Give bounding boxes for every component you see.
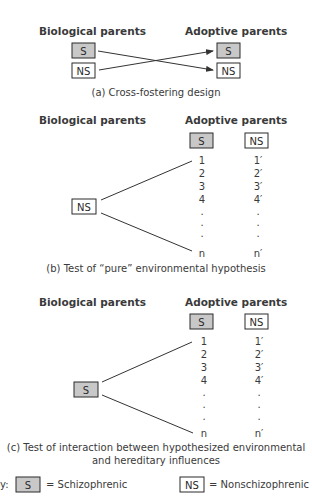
list-item: . (200, 228, 203, 239)
panel-b-col-s-label: S (198, 136, 204, 147)
list-item: . (257, 399, 260, 410)
list-item: . (256, 217, 259, 228)
list-item: 1 (201, 336, 207, 347)
panel-c-col-ns-label: NS (250, 317, 264, 328)
list-item: 3 (199, 181, 205, 192)
panel-a-adoptive-ns-label: NS (222, 66, 236, 77)
list-item: 4 (201, 375, 207, 386)
list-item: 2′ (254, 168, 263, 179)
list-item: 3′ (255, 362, 264, 373)
panel-b-header-biological: Biological parents (39, 114, 146, 126)
panel-b-bio-ns-label: NS (77, 202, 91, 213)
list-item: . (256, 206, 259, 217)
panel-a-caption: (a) Cross-fostering design (92, 87, 221, 98)
panel-c-bio-s-label: S (83, 385, 89, 396)
list-item: 1 (199, 155, 205, 166)
panel-b-col-s-list: 1 2 3 4 . . . n (199, 155, 205, 259)
panel-b-caption: (b) Test of “pure” environmental hypothe… (46, 263, 265, 274)
list-item: 1′ (255, 336, 264, 347)
panel-c-col-s-list: 1 2 3 4 . . . n (201, 336, 207, 439)
panel-b-header-adoptive: Adoptive parents (185, 114, 287, 126)
list-item: 4 (199, 194, 205, 205)
panel-b-line-to-first (101, 161, 192, 200)
legend-key: y: S = Schizophrenic NS = Nonschizophren… (0, 477, 309, 492)
list-item: 2 (199, 168, 205, 179)
list-item: . (202, 399, 205, 410)
panel-a-cross-fostering: Biological parents Adoptive parents S NS… (39, 25, 287, 98)
list-item: 3′ (254, 181, 263, 192)
list-item: . (200, 206, 203, 217)
list-item: . (200, 217, 203, 228)
panel-c-caption-line1: (c) Test of interaction between hypothes… (7, 442, 306, 453)
panel-a-header-biological: Biological parents (39, 25, 146, 37)
key-ns-meaning: = Nonschizophrenic (209, 479, 309, 490)
panel-a-adoptive-s-label: S (225, 46, 231, 57)
list-item: . (256, 228, 259, 239)
panel-b-col-ns-label: NS (250, 136, 264, 147)
list-item: . (257, 411, 260, 422)
list-item: 4′ (254, 194, 263, 205)
panel-c-header-adoptive: Adoptive parents (185, 296, 287, 308)
list-item: n (199, 248, 205, 259)
list-item: 2′ (255, 349, 264, 360)
panel-c-header-biological: Biological parents (39, 296, 146, 308)
list-item: n′ (254, 248, 263, 259)
list-item: n (201, 428, 207, 439)
list-item: 4′ (255, 375, 264, 386)
list-item: 3 (201, 362, 207, 373)
list-item: . (257, 387, 260, 398)
list-item: . (202, 411, 205, 422)
panel-c-line-to-last (102, 395, 193, 433)
panel-c-caption-line2: and hereditary influences (92, 455, 220, 466)
panel-a-header-adoptive: Adoptive parents (185, 25, 287, 37)
list-item: 1′ (254, 155, 263, 166)
key-s-label: S (25, 480, 31, 491)
panel-b-col-ns-list: 1′ 2′ 3′ 4′ . . . n′ (254, 155, 263, 259)
list-item: 2 (201, 349, 207, 360)
list-item: . (202, 387, 205, 398)
panel-c-line-to-first (102, 342, 192, 382)
key-ns-label: NS (185, 480, 199, 491)
panel-c-col-s-label: S (198, 317, 204, 328)
panel-a-bio-ns-label: NS (77, 66, 91, 77)
panel-b-pure-environmental: Biological parents Adoptive parents S NS… (39, 114, 287, 274)
key-s-meaning: = Schizophrenic (46, 479, 127, 490)
adoption-design-diagram: Biological parents Adoptive parents S NS… (0, 0, 312, 499)
panel-c-col-ns-list: 1′ 2′ 3′ 4′ . . . n′ (255, 336, 264, 439)
panel-a-bio-s-label: S (80, 46, 86, 57)
key-prefix: y: (0, 479, 9, 490)
panel-b-line-to-last (101, 213, 192, 251)
list-item: n′ (255, 428, 264, 439)
panel-c-interaction: Biological parents Adoptive parents S NS… (7, 296, 306, 466)
